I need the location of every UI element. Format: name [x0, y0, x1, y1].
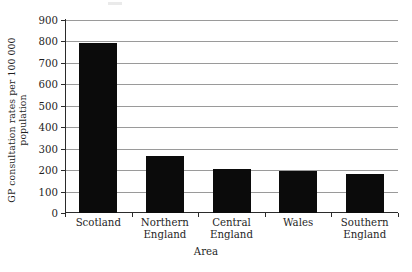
y-axis-title-line-2: population: [17, 37, 28, 202]
y-tick-mark-600: [61, 84, 66, 85]
y-tick-mark-500: [61, 106, 66, 107]
y-axis-title-line-1: GP consultation rates per 100 000: [6, 37, 17, 202]
y-tick-mark-400: [61, 127, 66, 128]
y-tick-label-300: 300: [39, 143, 58, 154]
y-tick-mark-700: [61, 63, 66, 64]
x-axis-title: Area: [0, 246, 412, 257]
gridline-0: [65, 213, 398, 214]
x-tick-label-line: Scotland: [65, 217, 132, 229]
y-tick-mark-100: [61, 192, 66, 193]
y-axis-title: GP consultation rates per 100 000 popula…: [0, 0, 34, 240]
x-tick-label-scotland: Scotland: [65, 217, 132, 229]
y-axis-line: [65, 19, 66, 214]
y-tick-label-900: 900: [39, 15, 58, 26]
x-tick-label-line: England: [331, 229, 398, 241]
gridline-900: [65, 20, 398, 21]
x-tick-label-line: Southern: [331, 217, 398, 229]
plot-area: 9008007006005004003002001000: [65, 20, 398, 213]
y-tick-label-600: 600: [39, 79, 58, 90]
x-tick-label-southern-england: SouthernEngland: [331, 217, 398, 240]
y-tick-label-800: 800: [39, 36, 58, 47]
scan-artifact: [108, 2, 122, 5]
y-tick-label-100: 100: [39, 186, 58, 197]
x-tick-label-line: England: [132, 229, 199, 241]
x-tick-label-central-england: CentralEngland: [198, 217, 265, 240]
bar-southern-england: [346, 174, 384, 213]
y-tick-mark-200: [61, 170, 66, 171]
bar-wales: [279, 171, 317, 213]
bar-northern-england: [146, 156, 184, 213]
y-tick-mark-300: [61, 149, 66, 150]
x-tick-label-northern-england: NorthernEngland: [132, 217, 199, 240]
x-tick-label-line: Wales: [265, 217, 332, 229]
x-tick-label-line: England: [198, 229, 265, 241]
bar-central-england: [213, 169, 251, 213]
x-tick-label-line: Central: [198, 217, 265, 229]
y-tick-label-500: 500: [39, 100, 58, 111]
bar-scotland: [79, 43, 117, 213]
x-tick-label-line: Northern: [132, 217, 199, 229]
y-tick-label-0: 0: [52, 208, 58, 219]
y-tick-label-400: 400: [39, 122, 58, 133]
y-tick-label-200: 200: [39, 165, 58, 176]
bar-chart-figure: GP consultation rates per 100 000 popula…: [0, 0, 412, 272]
y-tick-label-700: 700: [39, 57, 58, 68]
y-tick-mark-800: [61, 41, 66, 42]
x-tick-label-wales: Wales: [265, 217, 332, 229]
x-tick-mark-5: [398, 213, 399, 217]
y-tick-mark-900: [61, 20, 66, 21]
